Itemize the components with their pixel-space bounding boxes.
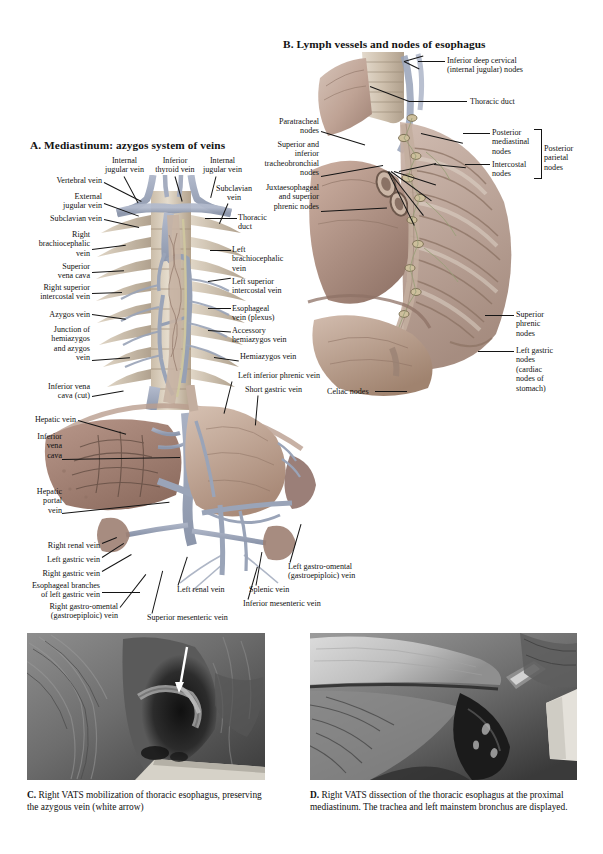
- label-right-brachiocephalic-vein: Right brachiocephalic vein: [20, 230, 90, 258]
- leader-left-brachiocephalic: [210, 250, 231, 251]
- photo-c-svg: [27, 633, 265, 780]
- leader-thoracic-duct-a: [205, 218, 237, 219]
- label-left-gastric-nodes: Left gastric nodes (cardiac nodes of sto…: [516, 346, 562, 393]
- photo-c-vats-mobilization: [27, 633, 265, 780]
- label-left-gastric-vein: Left gastric vein: [18, 555, 100, 564]
- label-superior-mesenteric-vein: Superior mesenteric vein: [147, 613, 228, 622]
- label-inferior-mesenteric-vein: Inferior mesenteric vein: [243, 599, 321, 608]
- label-esophageal-vein-plexus: Esophageal vein (plexus): [232, 304, 290, 323]
- label-juxtaesophageal-nodes: Juxtaesophageal and superior phrenic nod…: [258, 183, 319, 211]
- label-accessory-hemiazygos-vein: Accessory hemiazygos vein: [232, 326, 294, 345]
- label-right-superior-intercostal-vein: Right superior intercostal vein: [18, 283, 90, 302]
- anatomy-plate-page: A. Mediastinum: azygos system of veins B…: [0, 0, 603, 854]
- leader-esophageal-vein: [208, 308, 231, 309]
- label-subclavian-vein: Subclavian vein: [22, 214, 102, 223]
- label-thoracic-duct-a: Thoracic duct: [238, 213, 270, 232]
- label-inferior-thyroid-vein: Inferior thyroid vein: [153, 156, 197, 175]
- panel-b-title: B. Lymph vessels and nodes of esophagus: [283, 38, 486, 50]
- label-right-gastro-omental-vein: Right gastro-omental (gastroepiploic) ve…: [24, 602, 118, 621]
- label-splenic-vein: Splenic vein: [249, 585, 289, 594]
- label-esophageal-branches-left-gastric: Esophageal branches of left gastric vein: [10, 581, 100, 600]
- panel-a-title: A. Mediastinum: azygos system of veins: [30, 139, 225, 151]
- label-posterior-parietal-nodes: Posterior parietal nodes: [544, 144, 589, 172]
- label-inferior-vena-cava: Inferior vena cava: [14, 432, 62, 460]
- label-vertebral-vein: Vertebral vein: [44, 176, 102, 185]
- label-azygos-vein: Azygos vein: [30, 310, 90, 319]
- label-internal-jugular-vein-right: Internal jugular vein: [199, 156, 246, 175]
- label-superior-phrenic-nodes: Superior phrenic nodes: [516, 310, 558, 338]
- caption-d-text: Right VATS dissection of the thoracic es…: [310, 790, 568, 812]
- panel-a-abdominal-svg: [40, 385, 330, 600]
- label-left-gastro-omental-vein: Left gastro-omental (gastroepiploic) vei…: [288, 562, 380, 581]
- caption-d-letter: D.: [310, 790, 319, 800]
- label-right-gastric-vein: Right gastric vein: [18, 569, 100, 578]
- label-posterior-mediastinal-nodes: Posterior mediastinal nodes: [492, 128, 540, 156]
- panel-a-abdominal-illustration: [40, 385, 330, 600]
- label-junction-hemiazygos-azygos: Junction of hemiazygos and azygos vein: [24, 325, 90, 363]
- label-intercostal-nodes: Intercostal nodes: [492, 160, 538, 179]
- label-hemiazygos-vein: Hemiazygos vein: [240, 352, 302, 361]
- caption-c-letter: C.: [27, 790, 36, 800]
- leader-superior-phrenic: [485, 315, 514, 316]
- label-left-inferior-phrenic-vein: Left inferior phrenic vein: [238, 371, 320, 380]
- label-inferior-deep-cervical-nodes: Inferior deep cervical (internal jugular…: [447, 56, 523, 75]
- leader-thoracic-duct-b: [409, 101, 467, 102]
- label-superior-vena-cava: Superior vena cava: [30, 262, 90, 281]
- leader-esophageal-branches: [102, 592, 140, 593]
- photo-d-vats-dissection: [310, 633, 577, 780]
- label-right-renal-vein: Right renal vein: [18, 541, 100, 550]
- label-internal-jugular-vein-left: Internal jugular vein: [101, 156, 148, 175]
- label-hepatic-vein: Hepatic vein: [12, 415, 76, 424]
- leader-posterior-mediastinal: [463, 133, 490, 134]
- label-hepatic-portal-vein: Hepatic portal vein: [14, 487, 62, 515]
- label-tracheobronchial-nodes: Superior and inferior tracheobronchial n…: [258, 140, 319, 178]
- label-left-superior-intercostal-vein: Left superior intercostal vein: [232, 277, 294, 296]
- label-subclavian-vein-upper: Subclavian vein: [212, 184, 256, 203]
- caption-c: C. Right VATS mobilization of thoracic e…: [27, 789, 272, 813]
- leader-celiac-nodes: [375, 391, 407, 392]
- caption-d: D. Right VATS dissection of the thoracic…: [310, 789, 582, 813]
- label-external-jugular-vein: External jugular vein: [40, 192, 102, 211]
- leader-inferior-deep-cervical: [418, 61, 445, 62]
- label-short-gastric-vein: Short gastric vein: [245, 385, 302, 394]
- label-left-renal-vein: Left renal vein: [177, 585, 225, 594]
- bracket-posterior-parietal: [534, 129, 542, 179]
- leader-left-gastric-nodes: [478, 351, 514, 352]
- photo-d-svg: [310, 633, 577, 780]
- label-thoracic-duct-b: Thoracic duct: [470, 97, 515, 106]
- label-paratracheal-nodes: Paratracheal nodes: [271, 117, 319, 136]
- leader-intercostal: [465, 164, 490, 165]
- label-celiac-nodes: Celiac nodes: [327, 387, 369, 396]
- caption-c-text: Right VATS mobilization of thoracic esop…: [27, 790, 262, 812]
- label-left-brachiocephalic-vein: Left brachiocephalic vein: [232, 245, 292, 273]
- label-inferior-vena-cava-cut: Inferior vena cava (cut): [24, 382, 90, 401]
